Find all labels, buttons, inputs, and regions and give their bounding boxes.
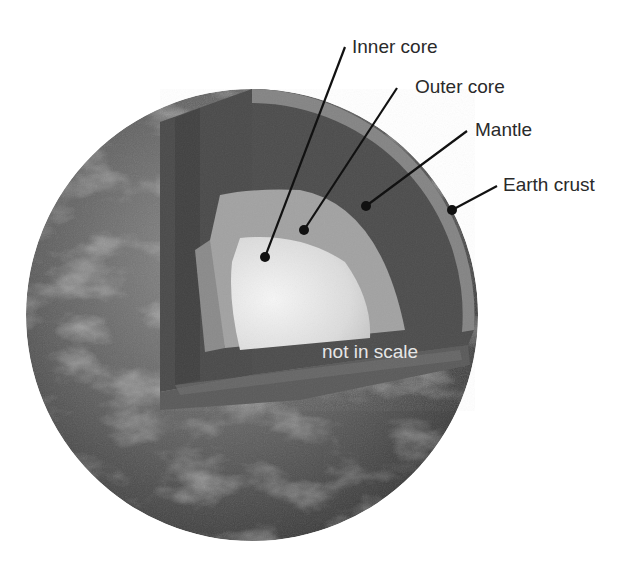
label-mantle: Mantle <box>475 120 532 139</box>
outer-core-dot <box>299 225 309 235</box>
cutaway-wedge <box>160 89 475 411</box>
earth-crust-dot <box>447 205 457 215</box>
label-earth-crust: Earth crust <box>503 175 595 194</box>
earth-layers-diagram: Inner core Outer core Mantle Earth crust… <box>0 0 641 574</box>
globe-illustration <box>0 0 641 574</box>
mantle-dot <box>361 201 371 211</box>
inner-core-dot <box>260 252 270 262</box>
label-outer-core: Outer core <box>415 77 505 96</box>
label-inner-core: Inner core <box>352 37 438 56</box>
scale-note: not in scale <box>322 342 418 361</box>
